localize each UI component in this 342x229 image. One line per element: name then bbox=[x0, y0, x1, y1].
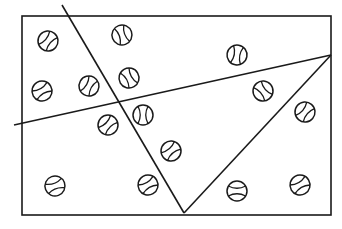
tennis-ball-icon bbox=[28, 77, 55, 104]
partition-diagram bbox=[0, 0, 342, 229]
tennis-ball-icon bbox=[133, 105, 153, 125]
tennis-ball-icon bbox=[291, 98, 319, 126]
tennis-ball-icon bbox=[286, 171, 313, 198]
tennis-ball-icon bbox=[94, 111, 122, 139]
tennis-ball-icon bbox=[115, 64, 142, 91]
tennis-ball-icon bbox=[134, 171, 161, 198]
line-crossing-line bbox=[14, 55, 331, 125]
tennis-ball-icon bbox=[157, 137, 185, 165]
outer-rectangle bbox=[22, 16, 331, 215]
diagram-canvas bbox=[0, 0, 342, 229]
tennis-ball-icon bbox=[34, 27, 62, 55]
tennis-ball-icon bbox=[225, 43, 248, 66]
tennis-ball-icon bbox=[42, 173, 68, 199]
tennis-ball-icon bbox=[109, 22, 135, 48]
tennis-ball-icon bbox=[75, 72, 102, 99]
tennis-ball-icon bbox=[227, 181, 247, 201]
tennis-ball-icon bbox=[249, 77, 277, 105]
